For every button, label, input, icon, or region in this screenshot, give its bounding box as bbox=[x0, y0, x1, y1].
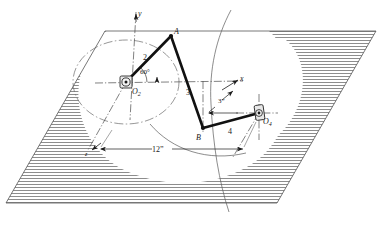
link-4-label: 4 bbox=[228, 127, 232, 136]
figure-root: y x z 60° 3” 12” 2 bbox=[0, 0, 381, 227]
joint-a-marker bbox=[169, 34, 173, 38]
mechanism-diagram: y x z 60° 3” 12” 2 bbox=[0, 0, 381, 227]
x-axis-label: x bbox=[239, 74, 244, 83]
crank-angle-label: 60° bbox=[140, 68, 150, 76]
span-dimension-label: 12” bbox=[152, 145, 164, 154]
link-3-label: 3 bbox=[186, 88, 190, 97]
link-2-label: 2 bbox=[143, 53, 147, 62]
joint-a-label: A bbox=[173, 27, 179, 36]
y-axis-label: y bbox=[137, 9, 142, 18]
joint-b-marker bbox=[201, 126, 205, 130]
o2-pivot-dot bbox=[125, 81, 128, 84]
offset-dimension-label: 3” bbox=[218, 97, 225, 105]
o4-pivot-dot bbox=[258, 112, 261, 115]
joint-b-label: B bbox=[196, 133, 201, 142]
reference-plane bbox=[0, 0, 381, 227]
bearing-o2 bbox=[120, 76, 132, 88]
